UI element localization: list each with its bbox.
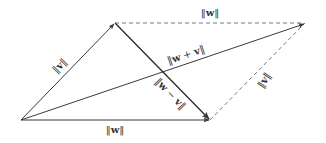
- label-norm-w-top: ‖w‖: [201, 7, 220, 19]
- dashed-edge-v-right: [210, 23, 305, 120]
- label-norm-w-bottom: ‖w‖: [106, 124, 125, 136]
- vector-difference-arrow: [115, 23, 209, 119]
- vector-parallelogram-diagram: ‖w‖ ‖v‖ ‖w + v‖ ‖w − v‖ ‖v‖ ‖w‖: [0, 0, 326, 143]
- vector-v-arrow: [21, 24, 114, 120]
- label-norm-difference: ‖w − v‖: [152, 76, 188, 113]
- label-norm-v-right: ‖v‖: [255, 70, 274, 90]
